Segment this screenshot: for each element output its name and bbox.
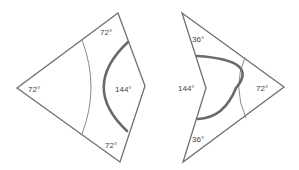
kite-angle-top: 72° bbox=[100, 28, 112, 37]
kite-angle-left: 72° bbox=[28, 85, 40, 94]
kite-shape: 72° 72° 144° 72° bbox=[17, 13, 145, 162]
kite-and-dart-diagram: 72° 72° 144° 72° 36° 144° 72° 36° bbox=[0, 0, 299, 170]
kite-angle-bottom: 72° bbox=[105, 141, 117, 150]
dart-angle-bottom: 36° bbox=[192, 135, 204, 144]
dart-angle-inner: 144° bbox=[178, 84, 195, 93]
dart-angle-right: 72° bbox=[256, 84, 268, 93]
dart-shape: 36° 144° 72° 36° bbox=[178, 13, 284, 162]
dart-angle-top: 36° bbox=[192, 35, 204, 44]
kite-thin-arc bbox=[82, 40, 91, 134]
dart-thick-arc bbox=[197, 56, 243, 119]
kite-angle-right: 144° bbox=[115, 85, 132, 94]
